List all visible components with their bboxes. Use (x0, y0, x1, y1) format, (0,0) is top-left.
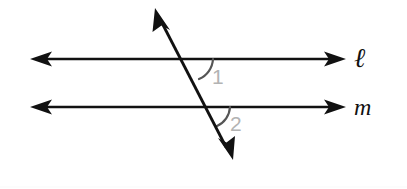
transversal-bottom-arrowhead (218, 136, 235, 160)
line-l-group (30, 52, 346, 67)
line-m-group (30, 100, 346, 115)
transversal-top-arrowhead (153, 8, 171, 32)
angle-1-label: 1 (212, 66, 224, 87)
angle-2-label: 2 (230, 113, 242, 134)
figure-canvas (0, 0, 407, 189)
geometry-figure: ℓ m 1 2 (0, 0, 407, 189)
angle-2-arc (217, 107, 230, 126)
angle-1-arc (199, 59, 213, 79)
scan-edge-artifact (0, 186, 407, 188)
line-label-ell: ℓ (354, 45, 365, 72)
line-label-m: m (354, 95, 371, 119)
